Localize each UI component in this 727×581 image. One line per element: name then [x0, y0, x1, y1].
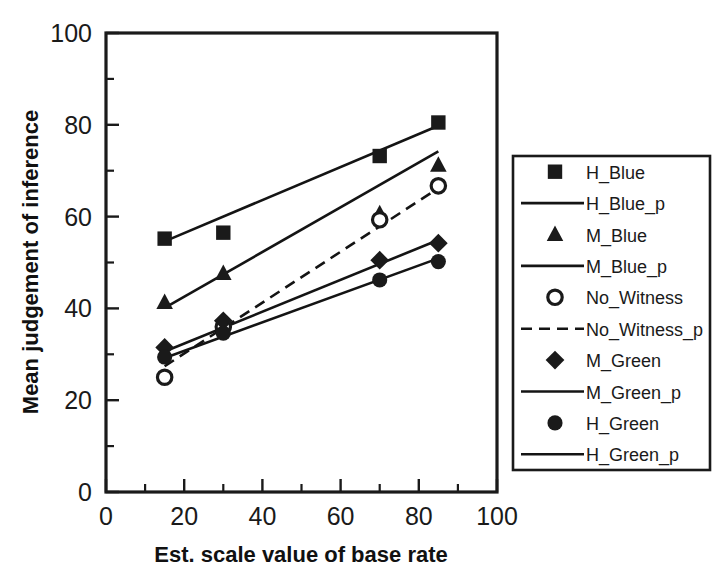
x-tick-label: 20 — [170, 502, 198, 530]
legend-square-icon — [548, 165, 562, 179]
x-axis-title: Est. scale value of base rate — [154, 542, 448, 567]
x-tick-label: 100 — [476, 502, 518, 530]
legend-label: M_Green_p — [586, 383, 681, 404]
legend-label: M_Green — [586, 351, 661, 372]
point-H_Blue — [216, 225, 230, 239]
point-H_Blue — [157, 231, 171, 245]
legend-circle-open-icon — [548, 290, 562, 304]
x-tick-label: 0 — [99, 502, 113, 530]
point-No_Witness — [157, 370, 171, 384]
legend-label: M_Blue — [586, 226, 647, 247]
point-H_Blue — [373, 149, 387, 163]
legend-label: H_Blue_p — [586, 194, 665, 215]
chart-figure: 020406080100 020406080100 Est. scale val… — [0, 0, 727, 581]
y-tick-label: 0 — [78, 478, 92, 506]
legend-label: No_Witness_p — [586, 320, 703, 341]
x-tick-label: 80 — [405, 502, 433, 530]
y-tick-label: 60 — [64, 203, 92, 231]
point-No_Witness — [373, 213, 387, 227]
y-tick-label: 40 — [64, 294, 92, 322]
y-tick-label: 100 — [50, 19, 92, 47]
legend-label: H_Blue — [586, 163, 645, 184]
point-H_Blue — [431, 115, 445, 129]
point-No_Witness — [431, 179, 445, 193]
x-tick-label: 60 — [327, 502, 355, 530]
legend-label: H_Green_p — [586, 445, 679, 466]
point-H_Green — [216, 326, 231, 341]
x-tick-label: 40 — [248, 502, 276, 530]
y-axis-title: Mean judgement of inference — [18, 110, 43, 414]
point-H_Green — [372, 272, 387, 287]
legend-label: M_Blue_p — [586, 257, 667, 278]
legend-label: H_Green — [586, 414, 659, 435]
scatter-plot: 020406080100 020406080100 Est. scale val… — [0, 0, 727, 581]
legend-circle-filled-icon — [547, 415, 562, 430]
point-H_Green — [157, 349, 172, 364]
y-tick-label: 20 — [64, 386, 92, 414]
legend-label: No_Witness — [586, 288, 683, 309]
point-H_Green — [431, 254, 446, 269]
y-tick-label: 80 — [64, 111, 92, 139]
